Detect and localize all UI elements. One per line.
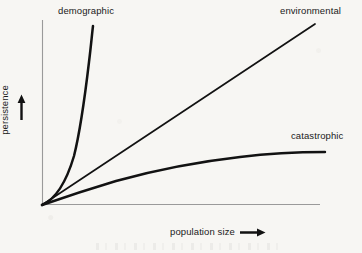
curve-label-demographic: demographic <box>58 6 114 16</box>
curve-catastrophic <box>42 152 325 205</box>
figure-container: demographic environmental catastrophic p… <box>0 0 362 253</box>
plot-area <box>0 0 362 253</box>
curve-demographic <box>42 26 93 205</box>
x-axis-label: population size <box>170 227 235 237</box>
curve-label-catastrophic: catastrophic <box>291 131 343 141</box>
right-arrow-icon <box>240 228 266 237</box>
y-axis-label: persistence <box>0 85 10 135</box>
y-axis-label-group: persistence <box>0 74 30 146</box>
x-axis-label-group: population size <box>170 227 266 237</box>
up-arrow-icon <box>17 95 26 121</box>
curve-label-environmental: environmental <box>280 6 341 16</box>
